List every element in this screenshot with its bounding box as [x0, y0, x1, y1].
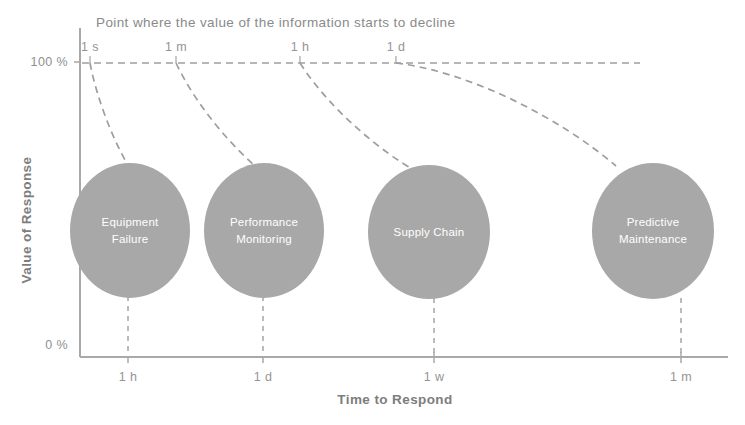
y-tick-label-100: 100 %	[31, 55, 68, 69]
decline-annotation-text: Point where the value of the information…	[96, 15, 455, 30]
decline-label-1m: 1 m	[165, 40, 187, 54]
bubble-label-line-2: Monitoring	[236, 231, 292, 248]
chart-figure: Point where the value of the information…	[0, 0, 745, 425]
x-axis-title: Time to Respond	[337, 392, 452, 407]
bubble-label-line-1: Performance	[230, 214, 298, 231]
bubble-predictive-maintenance[interactable]: Predictive Maintenance	[592, 163, 714, 299]
decay-curve-performance-monitoring	[176, 63, 262, 172]
decline-label-1h: 1 h	[291, 40, 310, 54]
x-tick-label-1h: 1 h	[119, 370, 138, 384]
decline-label-1s: 1 s	[81, 40, 99, 54]
bubble-supply-chain[interactable]: Supply Chain	[368, 165, 490, 299]
decline-label-1d: 1 d	[387, 40, 406, 54]
x-tick-label-1d: 1 d	[254, 370, 273, 384]
bubble-label-line-1: Supply Chain	[394, 224, 465, 241]
y-axis-title: Value of Response	[19, 157, 34, 284]
bubble-label-line-1: Predictive	[627, 214, 680, 231]
decay-curve-supply-chain	[300, 63, 414, 170]
x-tick-label-1m: 1 m	[670, 370, 692, 384]
decay-curve-predictive-maintenance	[396, 63, 616, 166]
bubble-label-line-1: Equipment	[102, 214, 159, 231]
y-tick-label-0: 0 %	[45, 338, 68, 352]
bubble-performance-monitoring[interactable]: Performance Monitoring	[204, 163, 324, 298]
x-tick-label-1w: 1 w	[424, 370, 445, 384]
bubble-equipment-failure[interactable]: Equipment Failure	[70, 163, 190, 298]
bubble-label-line-2: Failure	[112, 231, 149, 248]
decay-curve-equipment-failure	[90, 63, 132, 172]
bubble-label-line-2: Maintenance	[619, 231, 687, 248]
